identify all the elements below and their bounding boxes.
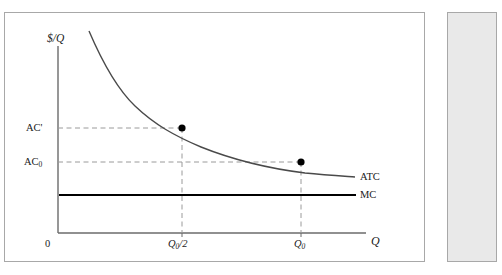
x-tick-q-half-suffix: /2 <box>179 238 187 249</box>
y-tick-ac-zero-sub: 0 <box>39 160 43 169</box>
atc-curve <box>89 31 355 177</box>
x-axis-title: Q <box>371 235 380 247</box>
x-tick-label-q-half: Q0/2 <box>168 239 188 250</box>
y-tick-ac-zero-base: AC <box>24 156 39 167</box>
x-tick-q-zero-sub: 0 <box>302 242 306 251</box>
side-panel <box>447 12 497 262</box>
y-tick-ac-prime-mark: ' <box>41 122 43 133</box>
point-ac-prime <box>178 124 185 131</box>
figure-root: $/Q Q 0 AC' AC0 Q0/2 Q0 ATC MC <box>0 0 502 275</box>
x-tick-q-zero-base: Q <box>294 238 302 249</box>
chart-frame: $/Q Q 0 AC' AC0 Q0/2 Q0 ATC MC <box>4 12 425 262</box>
y-tick-label-ac-prime: AC' <box>26 123 43 134</box>
chart-plot-area <box>5 13 424 261</box>
x-tick-q-half-sub: 0 <box>176 242 180 251</box>
x-tick-label-q-zero: Q0 <box>294 239 305 250</box>
mc-line-label: MC <box>360 190 376 201</box>
atc-curve-label: ATC <box>360 172 380 183</box>
y-tick-ac-prime-base: AC <box>26 122 41 133</box>
point-ac-zero <box>297 158 304 165</box>
y-tick-label-ac-zero: AC0 <box>24 157 42 168</box>
x-tick-q-half-base: Q <box>168 238 176 249</box>
y-axis-title: $/Q <box>47 33 64 45</box>
origin-label: 0 <box>45 239 50 250</box>
